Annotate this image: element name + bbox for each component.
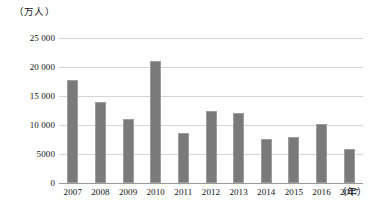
bar xyxy=(95,102,106,183)
bar xyxy=(67,80,78,183)
plot-area xyxy=(59,38,363,183)
bar-series xyxy=(59,38,363,183)
bar xyxy=(178,133,189,183)
bar xyxy=(261,139,272,183)
y-axis-tick-label: 5000 xyxy=(9,150,55,159)
y-axis-tick-label: 0 xyxy=(9,179,55,188)
y-axis-unit-label: （万人） xyxy=(14,4,55,18)
x-axis-tick-labels: 2007200820092010201120122013201420152016… xyxy=(59,186,363,202)
bar xyxy=(150,61,161,183)
bar xyxy=(288,137,299,183)
x-axis-unit-label: （年） xyxy=(337,186,367,198)
bar xyxy=(316,124,327,183)
y-axis-tick-label: 15 000 xyxy=(9,92,55,101)
bar xyxy=(123,119,134,183)
bar xyxy=(233,113,244,183)
y-axis-tick-label: 20 000 xyxy=(9,63,55,72)
gridline xyxy=(59,183,363,184)
y-axis-tick-label: 25 000 xyxy=(9,34,55,43)
bar xyxy=(206,111,217,183)
bar xyxy=(344,149,355,183)
bar-chart: （万人） 20072008200920102011201220132014201… xyxy=(0,0,373,217)
y-axis-tick-label: 10 000 xyxy=(9,121,55,130)
